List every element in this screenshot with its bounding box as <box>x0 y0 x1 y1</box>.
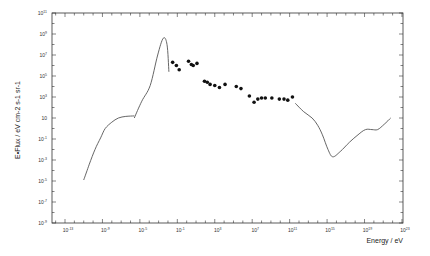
data-point <box>278 97 282 101</box>
data-point <box>177 68 181 72</box>
x-axis-title: Energy / eV <box>366 237 403 245</box>
y-tick-label: 107 <box>39 52 47 59</box>
data-point <box>195 62 199 66</box>
data-point <box>264 96 268 100</box>
y-tick-label: 10-1 <box>38 136 47 143</box>
y-tick-label: 105 <box>39 73 47 80</box>
data-point <box>213 84 217 88</box>
x-tick-label: 107 <box>251 227 259 234</box>
data-point <box>282 97 286 101</box>
data-point <box>256 97 260 101</box>
series-line <box>295 103 390 157</box>
data-point <box>191 64 195 68</box>
data-point <box>218 86 222 90</box>
data-point <box>234 85 238 89</box>
flux-spectrum-chart: 10-1310-910-510-11031071011101510191023 … <box>0 0 430 256</box>
y-tick-label: 10-9 <box>38 220 47 227</box>
x-tick-label: 10-13 <box>63 227 74 234</box>
x-tick-label: 103 <box>214 227 222 234</box>
x-tick-label: 10-5 <box>139 227 148 234</box>
data-point <box>208 83 212 87</box>
y-axis-title: E•Flux / eV cm-2 s-1 sr-1 <box>14 81 21 159</box>
y-tick-label: 10 <box>41 115 47 121</box>
data-point <box>291 95 295 99</box>
x-tick-label: 1023 <box>400 227 410 234</box>
plot-frame <box>52 13 403 223</box>
data-point <box>286 98 290 102</box>
y-tick-label: 10-7 <box>38 199 47 206</box>
x-tick-label: 1011 <box>288 227 297 234</box>
y-tick-label: 1011 <box>38 10 47 17</box>
y-tick-label: 10-5 <box>38 178 47 185</box>
data-point <box>248 94 252 98</box>
y-tick-label: 103 <box>39 94 47 101</box>
plot-series <box>84 38 391 180</box>
data-point <box>260 96 264 100</box>
y-axis-ticks: 10111091071051031010-110-310-510-710-9 <box>38 10 403 227</box>
series-line <box>84 116 135 180</box>
x-tick-label: 1019 <box>363 227 373 234</box>
plot-border <box>52 13 403 223</box>
y-tick-label: 109 <box>39 31 47 38</box>
x-tick-label: 10-1 <box>176 227 185 234</box>
data-point <box>270 96 274 100</box>
data-point <box>239 87 243 91</box>
series-line <box>134 38 169 118</box>
x-axis-ticks: 10-1310-910-510-11031071011101510191023 <box>56 13 410 233</box>
x-tick-label: 10-9 <box>101 227 110 234</box>
data-point <box>223 83 227 87</box>
data-point <box>171 61 175 65</box>
x-tick-label: 1015 <box>325 227 335 234</box>
y-tick-label: 10-3 <box>38 157 47 164</box>
data-point <box>187 60 191 64</box>
data-point <box>252 100 256 104</box>
data-point <box>175 64 179 68</box>
